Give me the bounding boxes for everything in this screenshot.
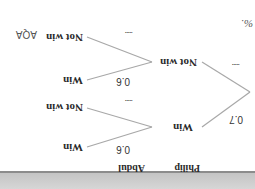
abdul-win-after-win-label: Win <box>63 142 83 153</box>
philip-notwin-label: Not win <box>160 57 197 68</box>
abdul-notwin-after-win-prob: ..... <box>125 98 133 107</box>
corner-text: %. <box>241 18 253 29</box>
abdul-win-after-win-prob: 0.6 <box>116 144 130 154</box>
document-photo: Philip Abdul Win 0.7 Not win ..... Win 0… <box>0 0 255 189</box>
philip-win-label: Win <box>173 122 193 133</box>
aqa-mark: AQA <box>16 29 37 39</box>
philip-notwin-prob: ..... <box>232 62 240 71</box>
header-philip: Philip <box>174 163 200 173</box>
rotated-page: Philip Abdul Win 0.7 Not win ..... Win 0… <box>0 0 255 189</box>
header-abdul: Abdul <box>118 163 145 173</box>
abdul-win-after-notwin-prob: 0.6 <box>116 76 130 86</box>
philip-win-prob: 0.7 <box>229 114 243 124</box>
tree-diagram-lines <box>0 0 255 189</box>
abdul-notwin-after-win-label: Not win <box>46 102 83 113</box>
abdul-win-after-notwin-label: Win <box>63 75 83 86</box>
abdul-notwin-after-notwin-prob: ..... <box>125 30 133 39</box>
abdul-notwin-after-notwin-label: Not win <box>46 32 83 43</box>
